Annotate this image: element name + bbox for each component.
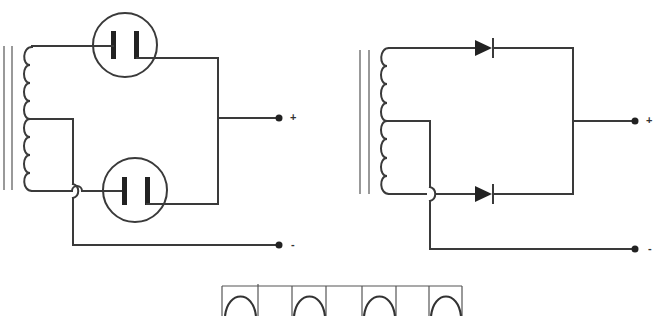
waveform-pulse	[294, 297, 325, 316]
positive-terminal	[276, 115, 283, 122]
tube-rectifier-circuit: + -	[4, 13, 296, 250]
positive-label: +	[290, 111, 296, 123]
negative-terminal-2	[632, 246, 639, 253]
diode-top-icon	[475, 39, 493, 57]
waveform-pulse	[225, 297, 256, 316]
positive-label-2: +	[646, 114, 652, 126]
negative-terminal	[276, 242, 283, 249]
transformer-core-icon	[4, 46, 12, 190]
vacuum-tube-top-icon	[93, 13, 218, 77]
positive-terminal-2	[632, 118, 639, 125]
waveform-pulse	[431, 297, 461, 316]
negative-label-2: -	[648, 242, 652, 254]
diode-rectifier-circuit: + -	[360, 39, 652, 254]
negative-label: -	[291, 238, 295, 250]
transformer-core-icon-2	[360, 50, 369, 194]
diode-bottom-icon	[475, 185, 493, 203]
rectified-waveform	[222, 284, 462, 316]
rectifier-diagram: + - +	[0, 0, 656, 316]
waveform-pulse	[364, 297, 395, 316]
